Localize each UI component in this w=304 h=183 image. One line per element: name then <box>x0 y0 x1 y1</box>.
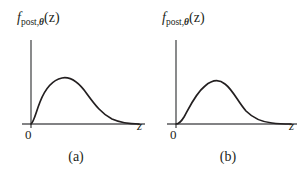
origin-label-a: 0 <box>25 128 32 141</box>
figure-container: fpost,θ(z) 0 z (a) fpost,θ(z) 0 z (b) <box>0 0 304 183</box>
x-axis-label-b: z <box>289 119 294 132</box>
y-axis-label-subscript-b: post,θ <box>166 17 189 27</box>
origin-label-b: 0 <box>170 128 177 141</box>
caption-b: (b) <box>152 150 304 164</box>
y-axis-label-argument-b: (z) <box>189 10 205 25</box>
y-axis-label-subscript-roman-a: post, <box>21 17 39 27</box>
panel-b: fpost,θ(z) 0 z (b) <box>152 0 304 183</box>
caption-a: (a) <box>0 150 152 164</box>
y-axis-label-subscript-a: post,θ <box>21 17 44 27</box>
density-curve-b <box>176 81 291 124</box>
y-axis-label-b: fpost,θ(z) <box>162 11 205 28</box>
panel-a: fpost,θ(z) 0 z (a) <box>0 0 152 183</box>
y-axis-label-argument-a: (z) <box>44 10 60 25</box>
density-curve-a <box>31 78 139 124</box>
x-axis-label-a: z <box>137 119 142 132</box>
y-axis-label-a: fpost,θ(z) <box>17 11 60 28</box>
y-axis-label-subscript-roman-b: post, <box>166 17 184 27</box>
